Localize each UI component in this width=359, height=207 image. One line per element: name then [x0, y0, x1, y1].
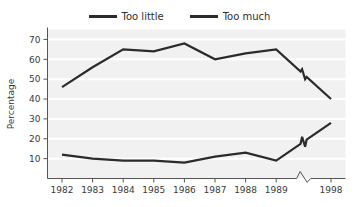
y-tick-labels: 10203040506070 [29, 35, 41, 164]
x-tick-label: 1986 [173, 185, 196, 195]
x-tick-labels: 198219831984198519861987198819891998 [51, 185, 343, 195]
x-tick-label: 1998 [320, 185, 343, 195]
x-tick-label: 1988 [234, 185, 257, 195]
x-tick-label: 1989 [265, 185, 288, 195]
x-tick-label: 1984 [112, 185, 135, 195]
y-tick-label: 20 [29, 134, 41, 144]
x-tick-label: 1985 [142, 185, 165, 195]
plot-background [48, 30, 346, 179]
y-tick-label: 10 [29, 154, 41, 164]
y-tick-label: 50 [29, 74, 41, 84]
line-chart: Too little Too much 10203040506070 19821… [0, 0, 359, 207]
y-axis [44, 28, 48, 179]
x-tick-label: 1983 [81, 185, 104, 195]
y-axis-title-text: Percentage [6, 78, 16, 129]
y-tick-label: 40 [29, 94, 41, 104]
y-tick-label: 70 [29, 35, 41, 45]
y-tick-label: 60 [29, 55, 41, 65]
plot-area: 10203040506070 1982198319841985198619871… [0, 0, 359, 207]
y-axis-title: Percentage [6, 78, 16, 129]
x-tick-label: 1982 [51, 185, 74, 195]
x-tick-label: 1987 [204, 185, 227, 195]
y-tick-label: 30 [29, 114, 41, 124]
